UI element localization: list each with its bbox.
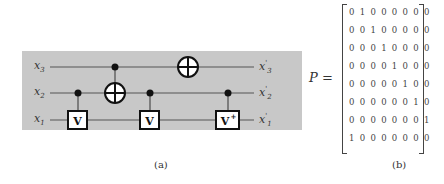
matrix-row: 0 0 0 0 0 0 0 1: [349, 115, 431, 125]
output-label-x2-prime: x'2: [259, 85, 272, 101]
input-label-x1: x1: [34, 112, 45, 127]
quantum-circuit: V V V + x3 x2 x1 x'3 x'2 x'1: [22, 51, 302, 130]
svg-text:V: V: [144, 115, 154, 128]
svg-text:V: V: [72, 115, 82, 128]
control-dot: [147, 90, 154, 97]
matrix-row: 1 0 0 0 0 0 0 0: [349, 133, 431, 143]
matrix-row: 0 0 1 0 0 0 0 0: [349, 25, 431, 35]
matrix-row: 0 0 0 0 0 0 1 0: [349, 97, 431, 107]
control-dot: [225, 90, 232, 97]
matrix-row: 0 0 0 0 0 1 0 0: [349, 79, 431, 89]
output-label-x1-prime: x'1: [259, 112, 272, 128]
matrix-row: 0 0 0 1 0 0 0 0: [349, 43, 431, 53]
caption-b: (b): [392, 159, 406, 170]
output-label-x3-prime: x'3: [259, 59, 272, 75]
control-dot: [112, 64, 119, 71]
input-label-x3: x3: [34, 59, 45, 74]
control-dot: [75, 90, 82, 97]
svg-text:+: +: [231, 112, 237, 121]
caption-a: (a): [154, 159, 168, 170]
matrix-row: 0 1 0 0 0 0 0 0: [349, 7, 431, 17]
input-label-x2: x2: [34, 85, 45, 100]
matrix-label: P =: [309, 70, 333, 85]
left-bracket: [342, 4, 347, 154]
matrix-row: 0 0 0 0 1 0 0 0: [349, 61, 431, 71]
svg-text:V: V: [220, 115, 230, 128]
permutation-matrix: 0 1 0 0 0 0 0 0 0 0 1 0 0 0 0 0 0 0 0 1 …: [342, 4, 424, 152]
